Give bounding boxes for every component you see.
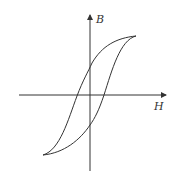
y-axis-label: B xyxy=(95,13,104,26)
hysteresis-diagram: B H xyxy=(0,0,179,181)
x-axis-label: H xyxy=(153,100,164,113)
